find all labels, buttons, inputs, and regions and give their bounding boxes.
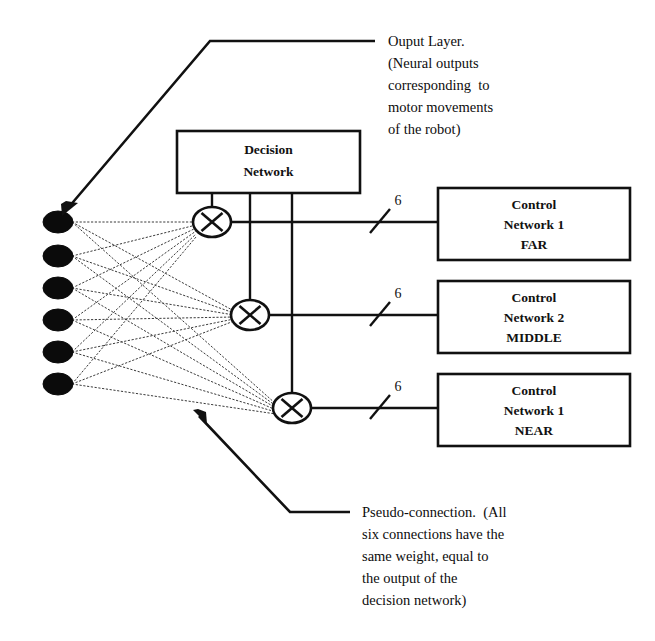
arrow-head-icon [193,409,207,424]
output-neuron [43,309,73,331]
decision-network-label-line2: Network [243,164,294,179]
multiplier-near[interactable] [273,393,311,423]
control-network-1-far-line3: FAR [521,237,548,252]
control-network-1-far-line2: Network 1 [504,217,565,232]
output-neuron [43,245,73,267]
arrow-head-icon [61,201,78,216]
output-neuron [43,341,73,363]
control-network-1-near-line2: Network 1 [504,403,565,418]
pseudo-connection-annotation-line-1: Pseudo-connection. (All [362,504,507,521]
bus-marker-near: 6 [370,379,402,419]
output-layer-annotation: Ouput Layer. (Neural outputs correspondi… [388,33,493,138]
bus-label-far: 6 [395,193,402,208]
control-network-2-middle-line3: MIDDLE [506,330,562,345]
control-network-1-near[interactable]: Control Network 1 NEAR [438,374,630,446]
control-network-2-middle-line2: Network 2 [504,310,565,325]
pseudo-connection-fan-middle [72,222,234,384]
output-layer-annotation-line-1: Ouput Layer. [388,33,465,49]
multiplier-far[interactable] [193,207,231,237]
pseudo-connection-annotation: Pseudo-connection. (All six connections … [362,504,507,609]
bus-label-near: 6 [395,379,402,394]
control-network-2-middle-line1: Control [512,290,557,305]
output-layer-annotation-line-2: (Neural outputs [388,55,479,72]
output-neuron [43,373,73,395]
diagram-svg: Decision Network 6 6 [0,0,655,641]
pseudo-connection-annotation-line-4: the output of the [362,570,457,586]
pseudo-connection-annotation-line-3: same weight, equal to [362,548,488,564]
bus-label-middle: 6 [395,286,402,301]
control-network-1-far-line1: Control [512,197,557,212]
output-neuron [43,277,73,299]
multiplier-middle[interactable] [231,300,269,330]
output-layer-annotation-line-3: corresponding to [388,77,489,93]
decision-network-box[interactable]: Decision Network [177,131,360,193]
diagram-canvas: Decision Network 6 6 [0,0,655,641]
control-network-1-near-line3: NEAR [515,423,554,438]
control-network-1-far[interactable]: Control Network 1 FAR [438,188,630,260]
control-network-2-middle[interactable]: Control Network 2 MIDDLE [438,281,630,353]
bus-marker-middle: 6 [370,286,402,326]
decision-network-label-line1: Decision [244,142,293,157]
output-layer-neurons [43,211,73,395]
bus-width-markers: 6 6 6 [370,193,402,419]
bus-marker-far: 6 [370,193,402,233]
output-layer-annotation-line-4: motor movements [388,99,493,115]
pseudo-connection-annotation-line-2: six connections have the [362,526,504,542]
output-neuron [43,211,73,233]
pseudo-connection-callout-arrow [193,409,350,512]
control-network-1-near-line1: Control [512,383,557,398]
pseudo-connection-annotation-line-5: decision network) [362,592,466,609]
output-layer-annotation-line-5: of the robot) [388,121,461,138]
